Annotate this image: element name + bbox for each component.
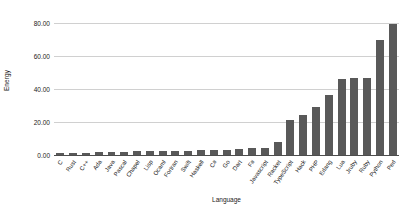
- x-axis-title: Language: [54, 196, 399, 203]
- bar-slot: [80, 15, 93, 155]
- x-tick-slot: TypeScript: [284, 157, 297, 197]
- bar-slot: [297, 15, 310, 155]
- x-axis-tick-label-text: C: [57, 159, 64, 166]
- bar-slot: [169, 15, 182, 155]
- x-axis-tick-label-text: F#: [247, 159, 256, 168]
- bar-slot: [207, 15, 220, 155]
- y-axis-title: Energy: [0, 0, 14, 160]
- bar-slot: [284, 15, 297, 155]
- y-axis-tick-label: 80.00: [34, 20, 50, 27]
- x-tick-slot: Hack: [297, 157, 310, 197]
- x-tick-slot: Chapel: [131, 157, 144, 197]
- x-tick-slot: Haskell: [195, 157, 208, 197]
- bar-slot: [54, 15, 67, 155]
- x-tick-slot: Rust: [67, 157, 80, 197]
- y-axis-title-text: Energy: [4, 69, 11, 90]
- x-tick-slot: C++: [80, 157, 93, 197]
- x-axis-tick-labels: CRustC++AdaJavaPascalChapelLispOcamlFort…: [54, 157, 399, 197]
- bar: [312, 107, 320, 155]
- x-tick-slot: C#: [207, 157, 220, 197]
- bar-slot: [131, 15, 144, 155]
- x-tick-slot: Ada: [92, 157, 105, 197]
- x-tick-slot: Lisp: [143, 157, 156, 197]
- x-axis-tick-label-text: Lua: [335, 159, 346, 171]
- plot-area: 0.0020.0040.0060.0080.00: [54, 15, 399, 155]
- bar-slot: [118, 15, 131, 155]
- bar-slot: [271, 15, 284, 155]
- bar: [376, 40, 384, 155]
- y-axis-tick-label: 40.00: [34, 86, 50, 93]
- bar-slot: [195, 15, 208, 155]
- y-axis-tick-label: 60.00: [34, 53, 50, 60]
- bar: [325, 95, 333, 155]
- bar-slot: [246, 15, 259, 155]
- bar-slot: [143, 15, 156, 155]
- x-axis-tick-label-text: C++: [78, 159, 89, 172]
- bar-slot: [374, 15, 387, 155]
- x-tick-slot: Dart: [233, 157, 246, 197]
- x-axis-tick-label-text: Lisp: [143, 159, 154, 171]
- bar-slot: [310, 15, 323, 155]
- bar-slot: [386, 15, 399, 155]
- bar-series: [54, 15, 399, 155]
- bar: [363, 78, 371, 155]
- x-tick-slot: Go: [220, 157, 233, 197]
- x-axis-tick-label-text: C#: [208, 159, 217, 169]
- x-tick-slot: Python: [374, 157, 387, 197]
- x-axis-tick-label-text: Perl: [386, 159, 397, 171]
- x-tick-slot: Lua: [335, 157, 348, 197]
- bar-slot: [67, 15, 80, 155]
- x-tick-slot: Fortran: [169, 157, 182, 197]
- x-axis-tick-label-text: PHP: [308, 159, 320, 173]
- x-tick-slot: Jruby: [348, 157, 361, 197]
- x-tick-slot: C: [54, 157, 67, 197]
- bar-slot: [92, 15, 105, 155]
- x-axis-tick-label-text: Hack: [294, 159, 307, 174]
- bar-slot: [322, 15, 335, 155]
- y-axis-tick-label: 20.00: [34, 119, 50, 126]
- bar: [338, 79, 346, 155]
- bar-slot: [233, 15, 246, 155]
- x-tick-slot: Perl: [386, 157, 399, 197]
- bar-slot: [259, 15, 272, 155]
- x-axis-tick-label-text: Rust: [65, 159, 77, 173]
- bar-slot: [335, 15, 348, 155]
- y-axis-tick-label: 0.00: [37, 152, 50, 159]
- x-tick-slot: Java: [105, 157, 118, 197]
- bar-slot: [220, 15, 233, 155]
- bar-slot: [348, 15, 361, 155]
- x-axis-tick-label: C: [59, 155, 66, 162]
- bar-slot: [182, 15, 195, 155]
- x-axis-tick-label-text: Go: [221, 159, 231, 169]
- bar: [350, 78, 358, 155]
- energy-by-language-bar-chart: Energy 0.0020.0040.0060.0080.00 CRustC++…: [0, 0, 405, 214]
- x-axis-tick-label-text: Ada: [92, 159, 103, 171]
- bar: [389, 24, 397, 155]
- bar-slot: [361, 15, 374, 155]
- x-axis-tick-label-text: Dart: [232, 159, 243, 172]
- x-tick-slot: Erlang: [322, 157, 335, 197]
- bar-slot: [156, 15, 169, 155]
- bar-slot: [105, 15, 118, 155]
- x-tick-slot: PHP: [310, 157, 323, 197]
